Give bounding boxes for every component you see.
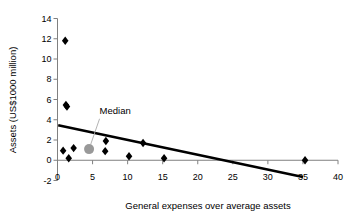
- x-tick-label: 20: [193, 172, 203, 182]
- y-tick-label: 8: [46, 74, 51, 84]
- chart-background: [0, 0, 360, 218]
- y-tick-label: 6: [46, 95, 51, 105]
- chart-canvas: 0510152025303540 -202468101214 Median Ge…: [0, 0, 360, 218]
- x-tick-label: 40: [333, 172, 343, 182]
- x-tick-label: 30: [263, 172, 273, 182]
- x-tick-label: 5: [90, 172, 95, 182]
- median-annotation-label: Median: [100, 105, 131, 116]
- y-tick-label: 0: [46, 155, 51, 165]
- y-tick-label: -2: [43, 176, 51, 186]
- x-tick-label: 25: [228, 172, 238, 182]
- median-marker: [84, 144, 94, 154]
- scatter-chart: 0510152025303540 -202468101214 Median Ge…: [0, 0, 360, 218]
- y-axis-title: Assets (US$1000 million): [7, 47, 18, 154]
- y-tick-label: 4: [46, 115, 51, 125]
- x-tick-label: 15: [158, 172, 168, 182]
- y-tick-label: 2: [46, 135, 51, 145]
- y-tick-label: 14: [41, 14, 51, 24]
- y-tick-label: 12: [41, 34, 51, 44]
- x-tick-label: 10: [123, 172, 133, 182]
- x-tick-label: 0: [55, 172, 60, 182]
- x-axis-title: General expenses over average assets: [125, 200, 291, 211]
- y-tick-label: 10: [41, 54, 51, 64]
